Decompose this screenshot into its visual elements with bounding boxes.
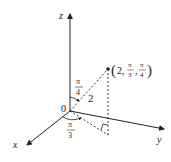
right-angle-marker <box>101 124 108 130</box>
point-label-phi-num: π <box>140 61 144 69</box>
point-label-phi-den: 4 <box>140 71 144 79</box>
spherical-coordinates-diagram: z y x 0 2 π 4 π 3 ( 2, π 3 , π 4 ) <box>0 0 171 162</box>
theta-label-numerator: π <box>68 120 72 129</box>
point-label-theta-den: 3 <box>128 71 132 79</box>
y-axis-label: y <box>156 134 162 145</box>
theta-label-denominator: 3 <box>68 131 72 140</box>
point-label-comma: , <box>135 65 138 76</box>
z-axis-label: z <box>58 10 63 21</box>
point-label-theta-num: π <box>128 61 132 69</box>
point-label-open-paren: ( <box>111 62 116 79</box>
point-marker <box>106 67 110 71</box>
point-label-rho: 2, <box>117 65 125 76</box>
phi-label-numerator: π <box>76 77 80 86</box>
x-axis-label: x <box>12 139 18 150</box>
phi-angle-arc <box>70 97 79 101</box>
point-coordinate-label: ( 2, π 3 , π 4 ) <box>111 61 152 79</box>
origin-label: 0 <box>61 103 66 114</box>
rho-label: 2 <box>88 92 94 104</box>
phi-label-denominator: 4 <box>76 88 80 97</box>
point-label-close-paren: ) <box>147 62 152 79</box>
x-axis <box>27 111 70 145</box>
